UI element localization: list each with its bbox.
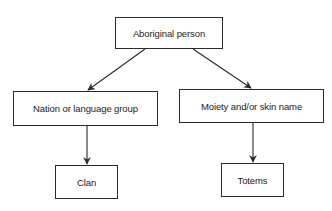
node-aboriginal-person: Aboriginal person: [115, 17, 223, 49]
edge-root-to-moiety: [193, 49, 251, 88]
node-label: Moiety and/or skin name: [201, 101, 302, 112]
node-label: Nation or language group: [33, 103, 138, 114]
node-moiety-and-or-skin-name: Moiety and/or skin name: [179, 89, 324, 123]
node-totems: Totems: [221, 163, 284, 197]
node-nation-or-language-group: Nation or language group: [13, 91, 158, 126]
node-label: Totems: [237, 175, 267, 186]
node-label: Aboriginal person: [133, 28, 205, 39]
node-clan: Clan: [55, 165, 118, 199]
hierarchy-diagram: Aboriginal person Nation or language gro…: [0, 0, 332, 211]
node-label: Clan: [77, 177, 96, 188]
edge-root-to-nation: [88, 49, 145, 90]
